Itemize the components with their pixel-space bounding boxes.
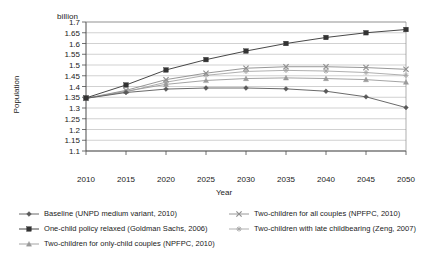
legend-marker-diamond: [18, 208, 40, 220]
marker-square: [364, 30, 369, 35]
legend-item-label: Two-children for only-child couples (NPF…: [44, 239, 215, 248]
data-line: [86, 88, 406, 108]
legend-column-right: Two-children for all couples (NPFPC, 201…: [228, 207, 416, 237]
population-projection-chart: billion Population 1.71.651.61.551.51.45…: [0, 0, 448, 263]
legend-item[interactable]: One-child policy relaxed (Goldman Sachs,…: [18, 222, 215, 235]
chart-legend: Baseline (UNPD medium variant, 2010)One-…: [0, 207, 448, 263]
legend-marker-cross: [228, 208, 250, 220]
marker-square: [84, 96, 89, 101]
legend-marker-triangle: [18, 238, 40, 250]
marker-square: [124, 83, 129, 88]
data-series: [84, 86, 409, 110]
legend-column-left: Baseline (UNPD medium variant, 2010)One-…: [18, 207, 215, 252]
x-axis-title: Year: [0, 188, 448, 197]
legend-item[interactable]: Two-children for only-child couples (NPF…: [18, 237, 215, 250]
legend-marker-asterisk: [228, 223, 250, 235]
marker-square: [27, 226, 32, 231]
marker-square: [164, 68, 169, 73]
data-line: [86, 70, 406, 98]
legend-item-label: Two-children for all couples (NPFPC, 201…: [254, 209, 400, 218]
marker-square: [284, 41, 289, 46]
marker-diamond: [324, 89, 329, 94]
legend-item-label: Two-children with late childbearing (Zen…: [254, 224, 416, 233]
marker-diamond: [27, 211, 32, 216]
marker-square: [204, 57, 209, 62]
legend-item[interactable]: Two-children for all couples (NPFPC, 201…: [228, 207, 416, 220]
legend-item[interactable]: Baseline (UNPD medium variant, 2010): [18, 207, 215, 220]
legend-item-label: One-child policy relaxed (Goldman Sachs,…: [44, 224, 208, 233]
legend-marker-square-filled: [18, 223, 40, 235]
legend-item-label: Baseline (UNPD medium variant, 2010): [44, 209, 177, 218]
marker-diamond: [404, 105, 409, 110]
marker-square: [404, 27, 409, 32]
marker-square: [324, 35, 329, 40]
marker-square: [244, 49, 249, 54]
marker-diamond: [284, 86, 289, 91]
legend-item[interactable]: Two-children with late childbearing (Zen…: [228, 222, 416, 235]
marker-diamond: [364, 94, 369, 99]
marker-diamond: [164, 87, 169, 92]
